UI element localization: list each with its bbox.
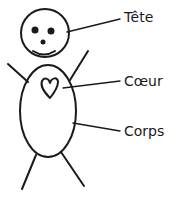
- left-leg: [22, 155, 36, 189]
- left-arm: [8, 64, 28, 82]
- right-arm: [70, 51, 88, 80]
- head: [21, 9, 69, 57]
- head-outline: [21, 9, 69, 57]
- smile: [33, 51, 55, 55]
- head-leader-line: [67, 19, 120, 32]
- stick-figure-diagram: Tête Cœur Corps: [0, 0, 177, 200]
- right-eye: [48, 28, 55, 35]
- left-eye: [32, 27, 39, 34]
- right-leg: [61, 152, 84, 186]
- label-head: Tête: [123, 9, 153, 25]
- nose: [41, 40, 46, 45]
- heart-shape: [41, 78, 58, 98]
- label-body: Corps: [124, 123, 164, 139]
- label-heart: Cœur: [124, 73, 163, 89]
- body-leader-line: [73, 123, 120, 131]
